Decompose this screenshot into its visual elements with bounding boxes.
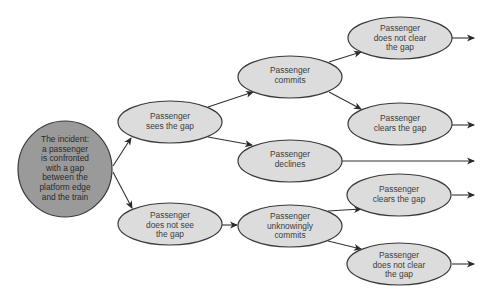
edge-unknowing-to-not-clear	[328, 241, 361, 249]
edge-sees-gap-to-declines	[208, 137, 252, 145]
edge-sees-gap-to-commits	[208, 92, 253, 107]
edge-root-to-sees-gap	[113, 138, 131, 166]
commits-does-not-clear-label: Passenger does not clear the gap	[374, 24, 427, 53]
unknowing-clears-label: Passenger clears the gap	[373, 185, 426, 204]
commits-label: Passenger commits	[270, 66, 310, 85]
edge-root-to-not-see-gap	[113, 172, 132, 208]
sees-gap-label: Passenger sees the gap	[146, 112, 194, 131]
edge-unknowing-to-clears	[328, 209, 361, 211]
declines-label: Passenger declines	[270, 150, 310, 169]
unknowing-does-not-clear-label: Passenger does not clear the gap	[373, 251, 426, 280]
edge-commits-to-clears	[329, 92, 361, 109]
root-incident-label: The incident: a passenger is confronted …	[39, 135, 90, 202]
unknowingly-commits-label: Passenger unknowingly commits	[267, 212, 313, 241]
commits-clears-label: Passenger clears the gap	[374, 114, 427, 133]
does-not-see-gap-label: Passenger does not see the gap	[146, 211, 194, 240]
edge-commits-to-not-clear	[329, 52, 361, 62]
